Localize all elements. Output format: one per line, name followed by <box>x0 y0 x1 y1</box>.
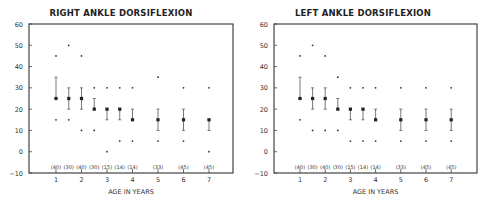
mean-marker <box>207 118 210 121</box>
sample-size-label: (40) <box>51 164 61 170</box>
sample-size-label: (15) <box>345 164 355 170</box>
max-point <box>400 87 402 89</box>
sample-size-label: (33) <box>153 164 163 170</box>
min-point <box>119 140 121 142</box>
y-tick-label: 50 <box>260 42 268 50</box>
max-point <box>157 76 159 78</box>
mean-marker <box>105 108 108 111</box>
x-tick-label: 6 <box>181 176 185 184</box>
max-point <box>450 87 452 89</box>
x-tick-label: 2 <box>323 176 327 184</box>
y-tick-label: −10 <box>9 170 23 178</box>
min-point <box>81 130 83 132</box>
sample-size-label: (45) <box>446 164 456 170</box>
max-point <box>93 87 95 89</box>
x-tick-label: 3 <box>348 176 352 184</box>
max-point <box>55 55 57 57</box>
y-tick-label: 40 <box>15 63 23 71</box>
sample-size-label: (15) <box>102 164 112 170</box>
y-tick-label: 40 <box>260 63 268 71</box>
mean-marker <box>424 118 427 121</box>
max-point <box>425 87 427 89</box>
max-point <box>337 76 339 78</box>
sample-size-label: (33) <box>396 164 406 170</box>
plot-area: −1001020304050601234567(40)(30)(40)(30)(… <box>242 0 484 203</box>
max-point <box>312 44 314 46</box>
sample-size-label: (30) <box>307 164 317 170</box>
y-tick-label: −10 <box>254 170 268 178</box>
sample-size-label: (14) <box>358 164 368 170</box>
min-point <box>68 119 70 121</box>
x-tick-label: 5 <box>399 176 403 184</box>
mean-marker <box>450 118 453 121</box>
right-ankle-chart: RIGHT ANKLE DORSIFLEXION −10010203040506… <box>0 0 242 203</box>
min-point <box>337 130 339 132</box>
mean-marker <box>324 97 327 100</box>
left-ankle-chart: LEFT ANKLE DORSIFLEXION −100102030405060… <box>242 0 484 203</box>
min-point <box>362 140 364 142</box>
min-point <box>450 140 452 142</box>
mean-marker <box>93 108 96 111</box>
mean-marker <box>67 97 70 100</box>
sample-size-label: (30) <box>64 164 74 170</box>
y-tick-label: 30 <box>15 84 23 92</box>
y-tick-label: 20 <box>15 106 23 114</box>
min-point <box>425 140 427 142</box>
x-tick-label: 7 <box>449 176 453 184</box>
min-point <box>375 140 377 142</box>
min-point <box>400 140 402 142</box>
min-point <box>157 140 159 142</box>
plot-area: −1001020304050601234567(40)(30)(40)(30)(… <box>0 0 242 203</box>
mean-marker <box>118 108 121 111</box>
y-tick-label: 50 <box>15 42 23 50</box>
y-tick-label: 10 <box>260 127 268 135</box>
sample-size-label: (40) <box>76 164 86 170</box>
x-tick-label: 6 <box>424 176 428 184</box>
y-tick-label: 60 <box>15 21 23 29</box>
sample-size-label: (14) <box>370 164 380 170</box>
max-point <box>299 55 301 57</box>
mean-marker <box>80 97 83 100</box>
min-point <box>324 130 326 132</box>
y-tick-label: 60 <box>260 21 268 29</box>
sample-size-label: (40) <box>295 164 305 170</box>
max-point <box>183 87 185 89</box>
min-point <box>106 151 108 153</box>
y-tick-label: 10 <box>15 127 23 135</box>
min-point <box>183 140 185 142</box>
max-point <box>208 87 210 89</box>
plot-frame <box>274 24 477 173</box>
mean-marker <box>156 118 159 121</box>
mean-marker <box>131 118 134 121</box>
mean-marker <box>374 118 377 121</box>
x-tick-label: 1 <box>298 176 302 184</box>
max-point <box>375 87 377 89</box>
x-tick-label: 1 <box>54 176 58 184</box>
y-tick-label: 0 <box>19 148 23 156</box>
x-tick-label: 4 <box>130 176 134 184</box>
mean-marker <box>182 118 185 121</box>
x-tick-label: 3 <box>105 176 109 184</box>
min-point <box>93 130 95 132</box>
sample-size-label: (14) <box>115 164 125 170</box>
min-point <box>208 151 210 153</box>
mean-marker <box>349 108 352 111</box>
x-tick-label: 2 <box>79 176 83 184</box>
mean-marker <box>336 108 339 111</box>
x-tick-label: 7 <box>207 176 211 184</box>
sample-size-label: (45) <box>421 164 431 170</box>
mean-marker <box>399 118 402 121</box>
sample-size-label: (45) <box>204 164 214 170</box>
min-point <box>132 140 134 142</box>
max-point <box>362 87 364 89</box>
max-point <box>106 87 108 89</box>
min-point <box>299 119 301 121</box>
sample-size-label: (45) <box>178 164 188 170</box>
y-tick-label: 30 <box>260 84 268 92</box>
max-point <box>68 44 70 46</box>
max-point <box>132 87 134 89</box>
plot-frame <box>29 24 233 173</box>
max-point <box>324 55 326 57</box>
sample-size-label: (14) <box>127 164 137 170</box>
y-tick-label: 0 <box>264 148 268 156</box>
